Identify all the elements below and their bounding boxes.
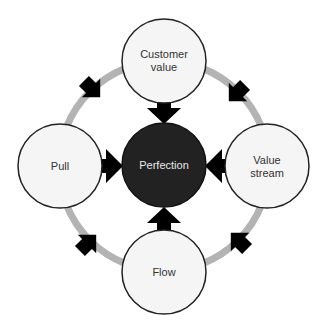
node-customer-value: Customer value [122,19,206,103]
node-label-line-2: value [151,61,177,73]
arrow-left-to-center-icon [101,149,123,183]
node-label-line-1: Value [253,154,280,166]
lean-principles-diagram: Perfection Customer value Value stream F… [0,0,323,328]
arrow-top-to-center-icon [147,102,181,124]
node-flow: Flow [122,230,206,314]
arrow-right-to-center-icon [205,149,227,183]
node-label: Pull [51,160,69,172]
node-label-line-2: stream [250,167,284,179]
center-label: Perfection [139,159,189,171]
arrow-bottom-to-center-icon [147,207,181,231]
node-pull: Pull [18,124,102,208]
cycle-arrow-bottom-left-icon [71,226,106,261]
node-label-line-1: Customer [140,48,188,60]
node-value-stream: Value stream [225,124,309,208]
center-node-perfection: Perfection [122,123,206,207]
node-label: Flow [152,266,175,278]
